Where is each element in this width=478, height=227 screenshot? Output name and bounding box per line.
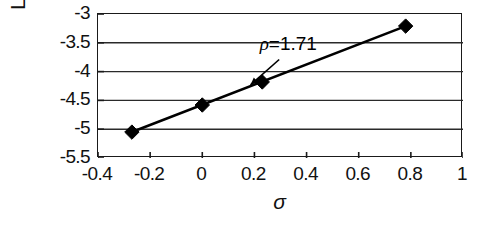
data-point-marker[interactable] xyxy=(125,125,139,139)
data-point-marker[interactable] xyxy=(398,19,412,33)
plot-canvas: ρ=1.71 xyxy=(98,14,463,158)
y-axis-tick-label: -4 xyxy=(30,61,90,80)
y-axis-tick-label: -4.5 xyxy=(30,89,90,108)
hammett-plot-figure: Log k (s-1) -3-3.5-4-4.5-5-5.5 ρ=1.71 -0… xyxy=(0,0,478,227)
y-axis-tick-labels: -3-3.5-4-4.5-5-5.5 xyxy=(28,0,90,227)
x-axis-tick-labels: -0.4-0.200.20.40.60.81 xyxy=(0,163,478,189)
plot-area: ρ=1.71 xyxy=(97,13,462,157)
y-axis-tick-label: -5 xyxy=(30,118,90,137)
x-axis-tick-label: -0.4 xyxy=(82,163,112,185)
x-axis-tick-label: 0 xyxy=(196,163,206,185)
x-axis-tick-label: 1 xyxy=(457,163,467,185)
y-axis-tick-label: -3 xyxy=(30,3,90,22)
x-axis-tick-label: 0.6 xyxy=(345,163,370,185)
x-axis-tick-label: 0.2 xyxy=(241,163,266,185)
x-axis-tick-label: -0.2 xyxy=(134,163,164,185)
x-axis-tick-label: 0.8 xyxy=(398,163,423,185)
x-axis-tick-label: 0.4 xyxy=(293,163,318,185)
annotation-label: ρ=1.71 xyxy=(259,33,317,54)
y-axis-title-prefix: Log xyxy=(6,0,29,10)
x-axis-title: σ xyxy=(97,190,462,214)
y-axis-tick-label: -3.5 xyxy=(30,32,90,51)
annotation-rho-symbol: ρ xyxy=(259,33,269,54)
annotation-rho-value: =1.71 xyxy=(269,33,317,54)
